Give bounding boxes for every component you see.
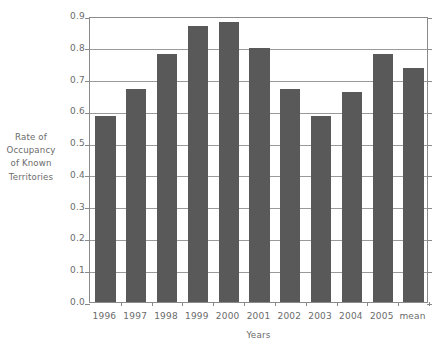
x-axis-tick-label: 2001 bbox=[243, 311, 274, 321]
y-axis-tick-label: 0.7 bbox=[61, 75, 85, 85]
x-axis-tick-label: mean bbox=[397, 311, 428, 321]
y-axis-tick-mark-right bbox=[427, 208, 432, 209]
y-axis-tick-mark-right bbox=[427, 113, 432, 114]
bar bbox=[280, 89, 300, 302]
y-axis-title-line-1: Rate of bbox=[2, 131, 60, 144]
y-axis-title-line-2: Occupancy bbox=[2, 144, 60, 157]
x-axis-tick-mark bbox=[244, 302, 245, 306]
y-axis-tick-label: 0.4 bbox=[61, 170, 85, 180]
bar bbox=[342, 92, 362, 302]
x-axis-tick-mark bbox=[429, 302, 430, 306]
bar-series bbox=[90, 18, 427, 302]
y-axis-tick-labels: 0.00.10.20.30.40.50.60.70.80.9 bbox=[59, 17, 85, 303]
y-axis-tick-mark-right bbox=[427, 81, 432, 82]
y-axis-tick-label: 0.0 bbox=[61, 297, 85, 307]
x-axis-tick-mark bbox=[275, 302, 276, 306]
y-axis-tick-label: 0.5 bbox=[61, 138, 85, 148]
y-axis-title-line-3: of Known bbox=[2, 157, 60, 170]
x-axis-tick-label: 1999 bbox=[181, 311, 212, 321]
x-axis-tick-label: 1998 bbox=[151, 311, 182, 321]
x-axis-tick-labels: 1996199719981999200020012002200320042005… bbox=[89, 311, 428, 327]
bar bbox=[188, 26, 208, 302]
x-axis-tick-mark bbox=[213, 302, 214, 306]
bar bbox=[249, 48, 269, 302]
y-axis-tick-mark-right bbox=[427, 145, 432, 146]
x-axis-tick-mark bbox=[182, 302, 183, 306]
bar bbox=[126, 89, 146, 302]
y-axis-tick-label: 0.2 bbox=[61, 233, 85, 243]
y-axis-title: Rate of Occupancy of Known Territories bbox=[2, 131, 60, 184]
y-axis-tick-label: 0.6 bbox=[61, 106, 85, 116]
y-axis-tick-mark-right bbox=[427, 18, 432, 19]
x-axis-tick-label: 2004 bbox=[336, 311, 367, 321]
x-axis-tick-mark bbox=[367, 302, 368, 306]
y-axis-tick-label: 0.8 bbox=[61, 43, 85, 53]
x-axis-tick-label: 2003 bbox=[305, 311, 336, 321]
x-axis-tick-mark bbox=[306, 302, 307, 306]
y-axis-tick-mark-right bbox=[427, 240, 432, 241]
x-axis-tick-label: 1996 bbox=[89, 311, 120, 321]
y-axis-tick-label: 0.9 bbox=[61, 11, 85, 21]
x-axis-tick-mark bbox=[121, 302, 122, 306]
y-axis-tick-mark-right bbox=[427, 49, 432, 50]
x-axis-tick-mark bbox=[337, 302, 338, 306]
bar bbox=[403, 68, 423, 302]
x-axis-title: Years bbox=[89, 330, 428, 340]
bar bbox=[95, 116, 115, 302]
y-axis-tick-mark bbox=[85, 304, 90, 305]
x-axis-tick-mark bbox=[398, 302, 399, 306]
bar bbox=[373, 54, 393, 302]
x-axis-tick-label: 2002 bbox=[274, 311, 305, 321]
y-axis-tick-label: 0.1 bbox=[61, 265, 85, 275]
x-axis-tick-mark bbox=[152, 302, 153, 306]
bar bbox=[311, 116, 331, 302]
y-axis-tick-mark-right bbox=[427, 272, 432, 273]
y-axis-tick-label: 0.3 bbox=[61, 202, 85, 212]
bar-chart-figure: Rate of Occupancy of Known Territories 0… bbox=[0, 0, 445, 348]
x-axis-tick-label: 1997 bbox=[120, 311, 151, 321]
y-axis-tick-mark-right bbox=[427, 176, 432, 177]
bar bbox=[219, 22, 239, 302]
bar bbox=[157, 54, 177, 302]
y-axis-title-line-4: Territories bbox=[2, 171, 60, 184]
x-axis-tick-label: 2005 bbox=[366, 311, 397, 321]
plot-area bbox=[89, 17, 428, 303]
x-axis-tick-label: 2000 bbox=[212, 311, 243, 321]
